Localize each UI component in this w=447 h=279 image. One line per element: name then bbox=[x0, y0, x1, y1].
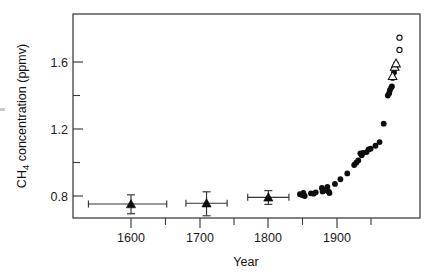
x-tick-label-1800: 1800 bbox=[254, 231, 282, 245]
data-point-filled-circle bbox=[332, 181, 338, 187]
scan-artifact bbox=[0, 108, 5, 111]
x-tick-label-1700: 1700 bbox=[186, 231, 214, 245]
ch4-concentration-scatter-chart: 1.6 1.2 0.8 CH4 concentration (ppmv) bbox=[0, 0, 447, 279]
data-point-filled-circle bbox=[389, 83, 395, 89]
y-tick-label-1.2: 1.2 bbox=[51, 123, 68, 137]
y-axis-title-prefix: CH bbox=[15, 170, 29, 188]
chart-figure: 1.6 1.2 0.8 CH4 concentration (ppmv) bbox=[0, 0, 447, 279]
x-axis-title: Year bbox=[233, 255, 258, 269]
data-point-open-circle bbox=[397, 47, 402, 52]
data-point-filled-circle bbox=[324, 184, 330, 190]
data-point-open-circle bbox=[397, 35, 402, 40]
x-tick-label-1900: 1900 bbox=[323, 231, 351, 245]
y-axis-title-suffix: concentration (ppmv) bbox=[15, 44, 29, 165]
data-point-filled-circle bbox=[327, 190, 333, 196]
x-tick-label-1600: 1600 bbox=[117, 231, 145, 245]
y-tick-label-0.8: 0.8 bbox=[51, 190, 68, 204]
data-point-filled-circle bbox=[355, 158, 361, 164]
data-point-filled-circle bbox=[368, 146, 374, 152]
data-point-filled-circle bbox=[338, 176, 344, 182]
data-point-filled-circle bbox=[313, 189, 319, 195]
data-point-filled-circle bbox=[302, 193, 308, 199]
data-point-filled-circle bbox=[344, 170, 350, 176]
data-point-filled-circle bbox=[381, 121, 387, 127]
data-point-filled-circle bbox=[377, 139, 383, 145]
y-tick-label-1.6: 1.6 bbox=[51, 56, 68, 70]
